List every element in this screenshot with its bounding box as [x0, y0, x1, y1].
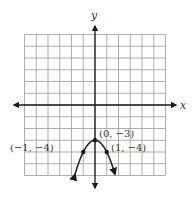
data-point [81, 150, 85, 154]
y-axis-label: y [90, 9, 98, 22]
coordinate-plane: x y (0, −3) (−1, −4) (1, −4) [0, 0, 195, 198]
x-axis-label: x [180, 99, 187, 112]
left-point-label: (−1, −4) [10, 142, 54, 153]
data-point [93, 138, 97, 142]
data-point [105, 150, 109, 154]
right-point-label: (1, −4) [111, 142, 146, 153]
vertex-label: (0, −3) [99, 128, 134, 139]
